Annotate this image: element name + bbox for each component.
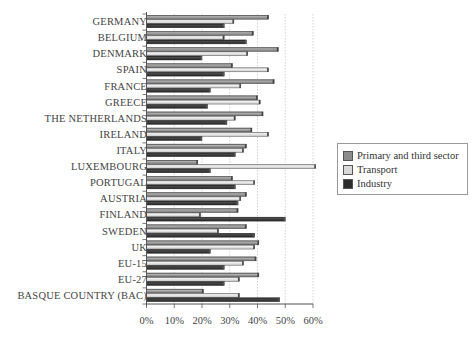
bar <box>147 192 247 196</box>
bar-cap <box>217 229 219 233</box>
bar <box>147 185 236 189</box>
x-tick-label: 50% <box>276 315 295 326</box>
bar-cap <box>234 185 236 189</box>
bar <box>147 84 241 88</box>
bar-cap <box>199 213 201 217</box>
bar <box>147 233 255 237</box>
bar-cap <box>253 245 255 249</box>
category-label: ITALY <box>116 145 147 157</box>
bar <box>147 96 258 100</box>
legend-label: Primary and third sector <box>357 150 459 161</box>
bar <box>147 68 269 72</box>
bar <box>147 261 244 265</box>
bar <box>147 201 239 205</box>
category-label: BASQUE COUNTRY (BAC) <box>17 290 147 302</box>
bar <box>147 257 257 261</box>
bar <box>147 160 198 164</box>
bar-cap <box>202 289 204 293</box>
bar <box>147 20 234 24</box>
bar-cap <box>239 197 241 201</box>
bar <box>147 120 227 124</box>
bar-cap <box>237 201 239 205</box>
bar-cap <box>209 169 211 173</box>
bar-cap <box>314 165 316 169</box>
bar-cap <box>252 31 254 35</box>
bar-cap <box>245 192 247 196</box>
bar-cap <box>246 52 248 56</box>
bar-cap <box>206 104 208 108</box>
bar <box>147 24 225 28</box>
legend-item-transport: Transport <box>343 163 397 176</box>
bar <box>147 15 269 19</box>
bar-cap <box>245 40 247 44</box>
category-label: GREECE <box>105 97 147 109</box>
bar-cap <box>267 68 269 72</box>
bar <box>147 225 247 229</box>
category-label: EU-27 <box>118 274 147 286</box>
bar <box>147 217 286 221</box>
bar <box>147 64 233 68</box>
x-tick-label: 40% <box>248 315 267 326</box>
legend-swatch-transport <box>343 165 353 175</box>
category-label: FRANCE <box>104 81 147 93</box>
legend-item-industry: Industry <box>343 177 392 190</box>
bar-cap <box>239 84 241 88</box>
category-label: FINLAND <box>100 209 147 221</box>
bar-cap <box>223 72 225 76</box>
bar <box>147 249 211 253</box>
category-label: BELGIUM <box>98 32 147 44</box>
bar-cap <box>196 160 198 164</box>
bar-cap <box>237 209 239 213</box>
bar-cap <box>253 181 255 185</box>
bar <box>147 293 240 297</box>
legend-swatch-industry <box>343 179 353 189</box>
bar-cap <box>238 277 240 281</box>
bar-cap <box>245 144 247 148</box>
bar <box>147 169 211 173</box>
bar-cap <box>277 47 279 51</box>
bar-cap <box>257 241 259 245</box>
bar-cap <box>267 132 269 136</box>
legend: Primary and third sector Transport Indus… <box>337 143 468 195</box>
category-label: GERMANY <box>93 16 148 28</box>
category-label: AUSTRIA <box>100 193 147 205</box>
category-label: LUXEMBOURG <box>71 161 147 173</box>
bar <box>147 116 236 120</box>
bar-cap <box>234 116 236 120</box>
bar-cap <box>256 96 258 100</box>
bar <box>147 165 316 169</box>
legend-item-primary: Primary and third sector <box>343 149 459 162</box>
bar <box>147 80 275 84</box>
bar-cap <box>223 265 225 269</box>
bar <box>147 56 203 60</box>
bar-cap <box>267 15 269 19</box>
bar <box>147 181 255 185</box>
bar-cap <box>209 249 211 253</box>
bar-cap <box>238 293 240 297</box>
bar-cap <box>250 128 252 132</box>
category-label: SWEDEN <box>102 226 147 238</box>
bar-cap <box>253 233 255 237</box>
bar <box>147 52 248 56</box>
bar-cap <box>234 153 236 157</box>
x-tick-label: 30% <box>220 315 239 326</box>
bar <box>147 153 236 157</box>
bar <box>147 277 240 281</box>
bar <box>147 197 241 201</box>
bar <box>147 112 264 116</box>
bar-cap <box>201 56 203 60</box>
bar <box>147 209 239 213</box>
category-label: EU-15 <box>118 258 147 270</box>
legend-label: Transport <box>357 164 397 175</box>
category-label: UK <box>131 242 147 254</box>
bar-cap <box>255 257 256 261</box>
bar <box>147 245 255 249</box>
bar-cap <box>201 137 203 141</box>
bar <box>147 72 225 76</box>
bar <box>147 289 204 293</box>
bar-cap <box>225 120 227 124</box>
bar-cap <box>278 298 280 302</box>
x-tick-label: 20% <box>192 315 211 326</box>
bar <box>147 241 259 245</box>
bar <box>147 31 254 35</box>
